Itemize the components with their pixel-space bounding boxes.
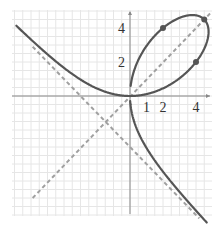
x-tick-label-2: 2 xyxy=(160,100,167,115)
y-tick-label-2: 2 xyxy=(118,55,125,70)
x-axis-arrow-icon xyxy=(206,94,210,98)
point-marker xyxy=(160,25,166,31)
folium-branch-lower xyxy=(130,101,207,222)
grid xyxy=(12,10,212,216)
y-axis-arrow-icon xyxy=(128,11,132,15)
folium-chart: 1 2 4 2 4 xyxy=(0,0,224,234)
point-marker xyxy=(201,17,207,23)
asymptote-line xyxy=(33,47,200,219)
point-marker xyxy=(193,59,199,65)
y-tick-label-4: 4 xyxy=(118,21,125,36)
x-tick-label-4: 4 xyxy=(193,100,200,115)
x-tick-label-1: 1 xyxy=(143,100,150,115)
